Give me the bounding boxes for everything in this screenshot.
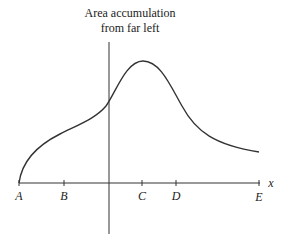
point-label-e: E [255,190,262,205]
accumulation-diagram [0,0,289,242]
point-label-d: D [172,189,181,204]
x-axis-label: x [268,176,273,191]
point-label-a: A [15,189,22,204]
accumulation-curve [19,61,259,183]
point-label-c: C [138,189,146,204]
point-label-b: B [60,189,67,204]
